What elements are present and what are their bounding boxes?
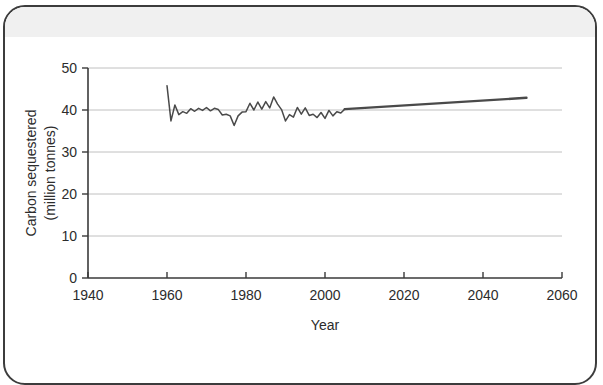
x-tick-label: 1980: [230, 287, 261, 303]
y-axis-title-line2: (million tonnes): [42, 126, 58, 221]
y-tick-label: 50: [61, 60, 77, 76]
x-tick-label: 2040: [467, 287, 498, 303]
y-tick-label: 20: [61, 186, 77, 202]
y-tick-label: 0: [69, 270, 77, 286]
x-axis-title: Year: [311, 317, 340, 333]
series-line-projection: [345, 98, 527, 109]
y-tick-label: 40: [61, 102, 77, 118]
gridlines-group: [88, 68, 562, 236]
x-tick-label: 2000: [309, 287, 340, 303]
y-axis-title-line1: Carbon sequestered: [23, 110, 39, 237]
x-tick-label: 1940: [72, 287, 103, 303]
x-tick-label: 1960: [151, 287, 182, 303]
data-series-group: [167, 86, 526, 126]
series-line-historical: [167, 86, 345, 126]
x-tick-labels-group: 1940196019802000202020402060: [72, 287, 577, 303]
y-tick-label: 30: [61, 144, 77, 160]
x-tick-label: 2060: [546, 287, 577, 303]
y-tick-labels-group: 01020304050: [61, 60, 77, 286]
x-tick-label: 2020: [388, 287, 419, 303]
y-tick-label: 10: [61, 228, 77, 244]
